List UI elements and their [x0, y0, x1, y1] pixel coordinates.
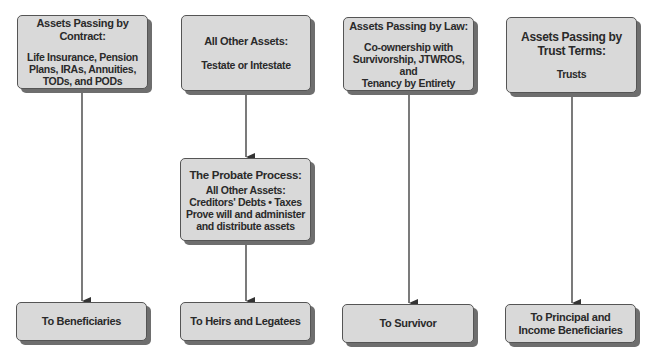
box-title-line: Assets Passing by — [521, 30, 622, 44]
box-body-line: Testate or Intestate — [201, 59, 291, 71]
box-body-line: Creditors' Debts • Taxes — [189, 196, 302, 208]
box-body-line: Prove will and administer — [186, 208, 305, 220]
box-title: Assets Passing by Contract: — [18, 17, 147, 43]
box-title: To Survivor — [379, 317, 436, 330]
box-body-line: All Other Assets: — [206, 184, 286, 196]
box-body-line: Co-ownership with — [364, 41, 453, 53]
box-all-other-assets: All Other Assets: Testate or Intestate — [181, 15, 311, 91]
box-to-heirs-and-legatees: To Heirs and Legatees — [180, 302, 311, 341]
box-body-line: Trusts — [557, 68, 587, 80]
box-title: To Heirs and Legatees — [190, 315, 300, 328]
box-body-line: Plans, IRAs, Annuities, — [29, 63, 136, 75]
box-title: To Beneficiaries — [42, 315, 121, 328]
box-title: Assets Passing by Law: — [349, 20, 468, 33]
box-title-line: Income Beneficiaries — [518, 324, 622, 337]
box-to-survivor: To Survivor — [342, 304, 474, 343]
box-body-line: Life Insurance, Pension — [27, 51, 138, 63]
box-probate-process: The Probate Process: All Other Assets: C… — [180, 158, 311, 241]
box-assets-by-trust: Assets Passing by Trust Terms: Trusts — [506, 17, 637, 93]
box-body-line: Survivorship, JTWROS, and — [344, 53, 473, 77]
box-to-beneficiaries: To Beneficiaries — [16, 302, 147, 341]
box-title: All Other Assets: — [204, 35, 288, 48]
box-assets-by-law: Assets Passing by Law: Co-ownership with… — [343, 17, 474, 91]
box-to-principal-and-income-beneficiaries: To Principal and Income Beneficiaries — [505, 304, 636, 343]
box-title-line: To Principal and — [531, 311, 611, 324]
box-assets-by-contract: Assets Passing by Contract: Life Insuran… — [17, 15, 148, 89]
box-title: The Probate Process: — [189, 168, 301, 182]
box-body-line: TODs, and PODs — [43, 75, 123, 87]
box-title-line: Trust Terms: — [537, 44, 605, 58]
box-body-line: and distribute assets — [196, 220, 295, 232]
box-body-line: Tenancy by Entirety — [362, 77, 455, 89]
